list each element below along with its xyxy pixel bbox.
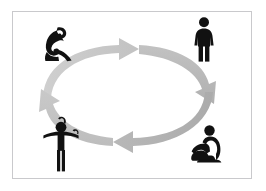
clipped-text-line — [8, 0, 258, 3]
screenshot-root — [0, 0, 266, 191]
figure-standing — [189, 16, 219, 62]
figure-hunched-sitting — [37, 25, 77, 63]
figure-sitting-knees-up — [185, 124, 229, 168]
clipped-text-strip — [0, 0, 266, 9]
figure-hands-on-head — [41, 114, 81, 172]
illustration-panel — [12, 11, 252, 179]
